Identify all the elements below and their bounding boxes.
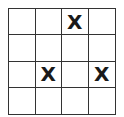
cell-r2-c2[interactable]	[62, 62, 89, 88]
cell-r3-c1[interactable]	[36, 88, 63, 114]
cell-r2-c0[interactable]	[9, 62, 36, 88]
cell-r1-c2[interactable]	[62, 35, 89, 61]
cell-r3-c2[interactable]	[62, 88, 89, 114]
cell-r0-c0[interactable]	[9, 9, 36, 35]
cell-r1-c1[interactable]	[36, 35, 63, 61]
cell-r1-c0[interactable]	[9, 35, 36, 61]
cell-r0-c2[interactable]: X	[62, 9, 89, 35]
cell-r0-c3[interactable]	[89, 9, 116, 35]
cell-r3-c3[interactable]	[89, 88, 116, 114]
cell-r2-c3[interactable]: X	[89, 62, 116, 88]
cell-r1-c3[interactable]	[89, 35, 116, 61]
game-board: X X X	[8, 8, 116, 115]
cell-r3-c0[interactable]	[9, 88, 36, 114]
cell-r0-c1[interactable]	[36, 9, 63, 35]
cell-r2-c1[interactable]: X	[36, 62, 63, 88]
